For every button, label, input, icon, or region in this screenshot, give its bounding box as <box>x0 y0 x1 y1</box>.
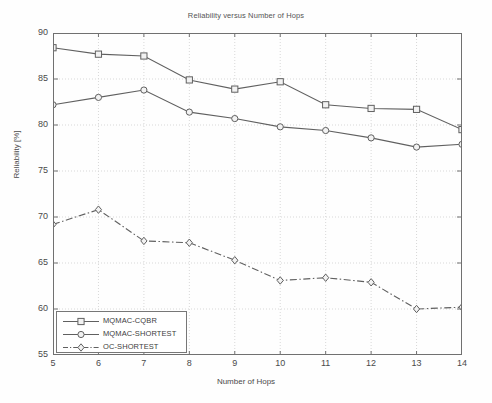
x-axis-label: Number of Hops <box>0 377 492 386</box>
series-2 <box>53 206 462 313</box>
data-point-square <box>368 105 374 111</box>
tick-marks <box>53 33 462 355</box>
data-point-diamond <box>413 305 419 312</box>
legend-item-mqmac-cqbr[interactable]: MQMAC-CQBR <box>57 314 188 327</box>
x-tick-label: 11 <box>311 358 341 368</box>
legend-item-oc-shortest[interactable]: OC-SHORTEST <box>57 340 188 353</box>
data-point-circle <box>277 124 283 130</box>
x-tick-label: 6 <box>83 358 113 368</box>
series-line <box>53 210 462 309</box>
data-point-circle <box>232 115 238 121</box>
data-point-square <box>232 86 238 92</box>
data-point-square <box>186 77 192 83</box>
y-tick-label: 65 <box>8 257 48 267</box>
legend-swatch-square-icon <box>61 314 101 327</box>
data-point-diamond <box>277 277 283 284</box>
series-line <box>53 48 462 130</box>
x-tick-label: 10 <box>265 358 295 368</box>
data-point-square <box>95 51 101 57</box>
data-point-diamond <box>141 237 147 244</box>
legend-label: MQMAC-SHORTEST <box>103 329 176 338</box>
chart-title: Reliability versus Number of Hops <box>0 11 492 20</box>
x-tick-label: 7 <box>129 358 159 368</box>
data-point-square <box>277 79 283 85</box>
series-line <box>53 90 462 147</box>
y-tick-label: 90 <box>8 27 48 37</box>
y-tick-label: 60 <box>8 303 48 313</box>
y-axis-label: Reliability [%] <box>12 95 21 215</box>
x-tick-label: 14 <box>447 358 477 368</box>
data-point-circle <box>323 127 329 133</box>
x-tick-label: 9 <box>220 358 250 368</box>
data-point-diamond <box>95 206 101 213</box>
data-point-circle <box>413 144 419 150</box>
gridlines <box>53 33 462 355</box>
y-tick-label: 85 <box>8 73 48 83</box>
plot-area <box>53 33 462 355</box>
data-point-circle <box>368 135 374 141</box>
data-point-circle <box>78 331 84 337</box>
data-point-circle <box>186 109 192 115</box>
plot-svg <box>53 33 462 355</box>
data-point-square <box>78 318 84 324</box>
legend-swatch-circle-icon <box>61 327 101 340</box>
data-point-circle <box>141 87 147 93</box>
legend-item-mqmac-shortest[interactable]: MQMAC-SHORTEST <box>57 327 188 340</box>
legend: MQMAC-CQBRMQMAC-SHORTESTOC-SHORTEST <box>56 311 187 353</box>
data-point-square <box>413 106 419 112</box>
series-1 <box>53 87 462 150</box>
figure-canvas: Reliability versus Number of Hops 556065… <box>0 0 492 403</box>
data-point-circle <box>95 94 101 100</box>
plot-frame <box>54 34 462 355</box>
x-tick-label: 8 <box>174 358 204 368</box>
data-point-diamond <box>368 279 374 286</box>
data-point-diamond <box>78 344 84 351</box>
legend-label: OC-SHORTEST <box>103 342 159 351</box>
data-point-diamond <box>186 239 192 246</box>
legend-swatch-diamond-icon <box>61 340 101 353</box>
legend-label: MQMAC-CQBR <box>103 316 157 325</box>
data-point-diamond <box>323 274 329 281</box>
x-tick-label: 12 <box>356 358 386 368</box>
data-series-layer <box>53 45 462 313</box>
x-tick-label: 13 <box>402 358 432 368</box>
x-tick-label: 5 <box>38 358 68 368</box>
series-0 <box>53 45 462 133</box>
data-point-square <box>141 53 147 59</box>
data-point-square <box>323 102 329 108</box>
